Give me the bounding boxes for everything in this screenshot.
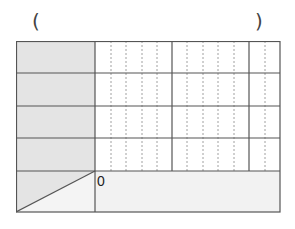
axis-row-fill bbox=[95, 171, 280, 212]
left-parenthesis: ( bbox=[32, 9, 40, 33]
origin-label: 0 bbox=[97, 173, 105, 189]
right-parenthesis: ) bbox=[255, 9, 263, 33]
grid-drawing bbox=[16, 41, 281, 213]
bar-chart-grid-table bbox=[16, 41, 280, 212]
